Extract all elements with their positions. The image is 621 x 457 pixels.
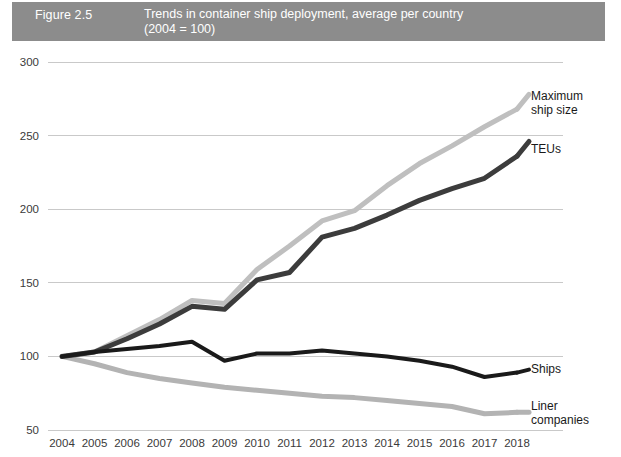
y-axis-tick-label: 100 — [20, 350, 39, 362]
x-axis-tick-label: 2018 — [504, 437, 530, 449]
x-axis-tick-label: 2005 — [82, 437, 108, 449]
x-axis-tick-label: 2004 — [49, 437, 75, 449]
series-label-liner-companies-line1: Liner — [531, 399, 589, 413]
series-leader-teus — [517, 141, 529, 156]
x-axis-tick-label: 2010 — [244, 437, 270, 449]
series-label-teus-text: TEUs — [531, 142, 561, 156]
y-axis-tick-label: 150 — [20, 277, 39, 289]
series-line-maximum-ship-size — [62, 109, 517, 356]
y-axis-tick-labels: 50100150200250300 — [20, 56, 39, 436]
series-label-ships-text: Ships — [531, 362, 561, 376]
x-axis-tick-label: 2013 — [342, 437, 368, 449]
x-axis-tick-labels: 2004200520062007200820092010201120122013… — [49, 437, 530, 449]
chart-container: 50100150200250300 2004200520062007200820… — [0, 0, 621, 457]
line-chart: 50100150200250300 2004200520062007200820… — [0, 0, 621, 457]
series-label-maximum-ship-size-line1: Maximum — [531, 89, 583, 103]
series-label-liner-companies: Liner companies — [531, 399, 589, 427]
data-series-lines — [62, 94, 529, 413]
x-axis-tick-label: 2008 — [179, 437, 205, 449]
x-axis-tick-label: 2016 — [439, 437, 465, 449]
y-axis-tick-label: 250 — [20, 130, 39, 142]
gridlines — [48, 62, 563, 430]
series-label-ships: Ships — [531, 362, 561, 376]
series-leader-maximum-ship-size — [517, 94, 529, 109]
x-axis-tick-label: 2007 — [147, 437, 173, 449]
series-label-liner-companies-line2: companies — [531, 413, 589, 427]
x-axis-tick-label: 2011 — [277, 437, 302, 449]
series-label-maximum-ship-size: Maximum ship size — [531, 89, 583, 117]
series-label-teus: TEUs — [531, 142, 561, 156]
series-label-maximum-ship-size-line2: ship size — [531, 103, 583, 117]
x-axis-tick-label: 2012 — [309, 437, 335, 449]
y-axis-tick-label: 50 — [26, 424, 39, 436]
x-axis-tick-label: 2017 — [472, 437, 498, 449]
x-axis-tick-label: 2006 — [114, 437, 140, 449]
series-leader-ships — [517, 370, 529, 373]
x-axis-tick-label: 2014 — [374, 437, 400, 449]
y-axis-tick-label: 300 — [20, 56, 39, 68]
y-axis-tick-label: 200 — [20, 203, 39, 215]
x-axis-tick-label: 2009 — [212, 437, 238, 449]
series-line-teus — [62, 156, 517, 356]
x-axis-tick-label: 2015 — [407, 437, 433, 449]
